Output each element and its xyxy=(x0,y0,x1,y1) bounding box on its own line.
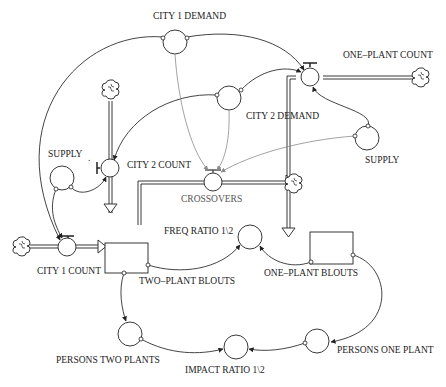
label-city2-count: CITY 2 COUNT xyxy=(127,160,191,170)
flow-arrowheads xyxy=(98,175,295,253)
aux-persons-one-plant[interactable] xyxy=(305,329,329,353)
label-city1-demand: CITY 1 DEMAND xyxy=(153,11,226,21)
valve-crossovers[interactable] xyxy=(204,170,222,191)
label-persons-two-plants: PERSONS TWO PLANTS xyxy=(56,355,160,365)
label-freq-ratio: FREQ RATIO 1\2 xyxy=(164,226,233,236)
aux-persons-two-plants[interactable] xyxy=(118,322,142,346)
aux-freq-ratio[interactable] xyxy=(238,225,262,249)
cloud-icon-top xyxy=(102,80,119,99)
label-supply-left: SUPPLY xyxy=(48,149,82,159)
cloud-icon-right xyxy=(412,68,429,87)
valve-city1-count[interactable] xyxy=(58,236,76,256)
label-persons-one-plant: PERSONS ONE PLANT xyxy=(337,345,434,355)
label-city1-count: CITY 1 COUNT xyxy=(37,266,101,276)
aux-city1-demand[interactable] xyxy=(163,30,187,54)
cloud-icon-left xyxy=(13,237,30,256)
label-two-plant-blouts: TWO–PLANT BLOUTS xyxy=(139,276,235,286)
supply-dot: . xyxy=(88,153,90,163)
valve-city2-count[interactable] xyxy=(97,159,119,177)
aux-city2-demand[interactable] xyxy=(217,86,241,110)
label-crossovers: CROSSOVERS xyxy=(181,194,242,204)
valve-one-plant-count[interactable] xyxy=(301,63,319,86)
stock-one-plant-blouts[interactable] xyxy=(310,232,353,264)
label-one-plant-blouts: ONE–PLANT BLOUTS xyxy=(264,268,358,278)
aux-impact-ratio[interactable] xyxy=(224,335,248,359)
label-supply-right: SUPPLY xyxy=(365,155,399,165)
label-one-plant-count: ONE–PLANT COUNT xyxy=(343,50,433,60)
stock-two-plant-blouts[interactable] xyxy=(105,243,148,273)
aux-supply-right[interactable] xyxy=(355,126,379,150)
label-impact-ratio: IMPACT RATIO 1\2 xyxy=(185,365,265,375)
label-city2-demand: CITY 2 DEMAND xyxy=(246,111,319,121)
